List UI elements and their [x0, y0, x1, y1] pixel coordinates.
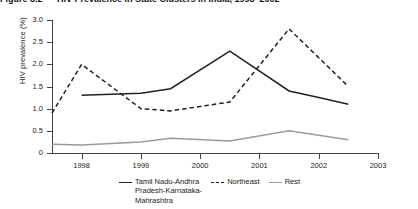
- series-lines: [52, 20, 378, 153]
- series-line: [52, 29, 348, 113]
- page-title: HIV Prevalence in State Clusters in Indi…: [57, 0, 280, 4]
- figure-container: Figure 3.2 HIV Prevalence in State Clust…: [0, 0, 418, 209]
- chart-legend: Tamil Nadu-Andhra Pradesh-Karnataka- Mah…: [119, 177, 409, 205]
- y-tick-mark: [47, 153, 52, 154]
- x-axis-line: [52, 153, 379, 154]
- x-tick-mark: [378, 154, 379, 159]
- y-tick-label: 0: [3, 148, 43, 157]
- x-tick-label: 1999: [118, 161, 164, 170]
- x-tick-label: 2000: [177, 161, 223, 170]
- x-tick-mark: [200, 154, 201, 159]
- x-tick-mark: [319, 154, 320, 159]
- x-tick-mark: [259, 154, 260, 159]
- legend-label: Northeast: [227, 177, 260, 186]
- figure-title-bar: Figure 3.2 HIV Prevalence in State Clust…: [0, 0, 418, 6]
- series-line: [52, 131, 348, 145]
- x-tick-label: 1998: [59, 161, 105, 170]
- legend-line-swatch-icon: [269, 178, 282, 187]
- y-tick-label: 2.5: [3, 37, 43, 46]
- legend-row: Tamil Nadu-Andhra Pradesh-Karnataka- Mah…: [119, 177, 409, 205]
- x-tick-label: 2002: [296, 161, 342, 170]
- x-tick-mark: [141, 154, 142, 159]
- y-tick-label: 1.5: [3, 82, 43, 91]
- legend-line-swatch-icon: [119, 178, 132, 187]
- legend-item[interactable]: Tamil Nadu-Andhra Pradesh-Karnataka- Mah…: [119, 177, 202, 205]
- y-tick-label: 3.0: [3, 15, 43, 24]
- x-tick-label: 2003: [355, 161, 401, 170]
- legend-item[interactable]: Rest: [269, 177, 300, 187]
- legend-label: Rest: [285, 177, 300, 186]
- x-tick-mark: [82, 154, 83, 159]
- plot-area: [52, 20, 378, 153]
- y-tick-label: 0.5: [3, 126, 43, 135]
- legend-label: Tamil Nadu-Andhra Pradesh-Karnataka- Mah…: [135, 177, 202, 205]
- legend-item[interactable]: Northeast: [211, 177, 260, 187]
- x-tick-label: 2001: [236, 161, 282, 170]
- y-tick-label: 2.0: [3, 59, 43, 68]
- series-line: [82, 51, 349, 104]
- y-tick-label: 1.0: [3, 104, 43, 113]
- legend-line-swatch-icon: [211, 178, 224, 187]
